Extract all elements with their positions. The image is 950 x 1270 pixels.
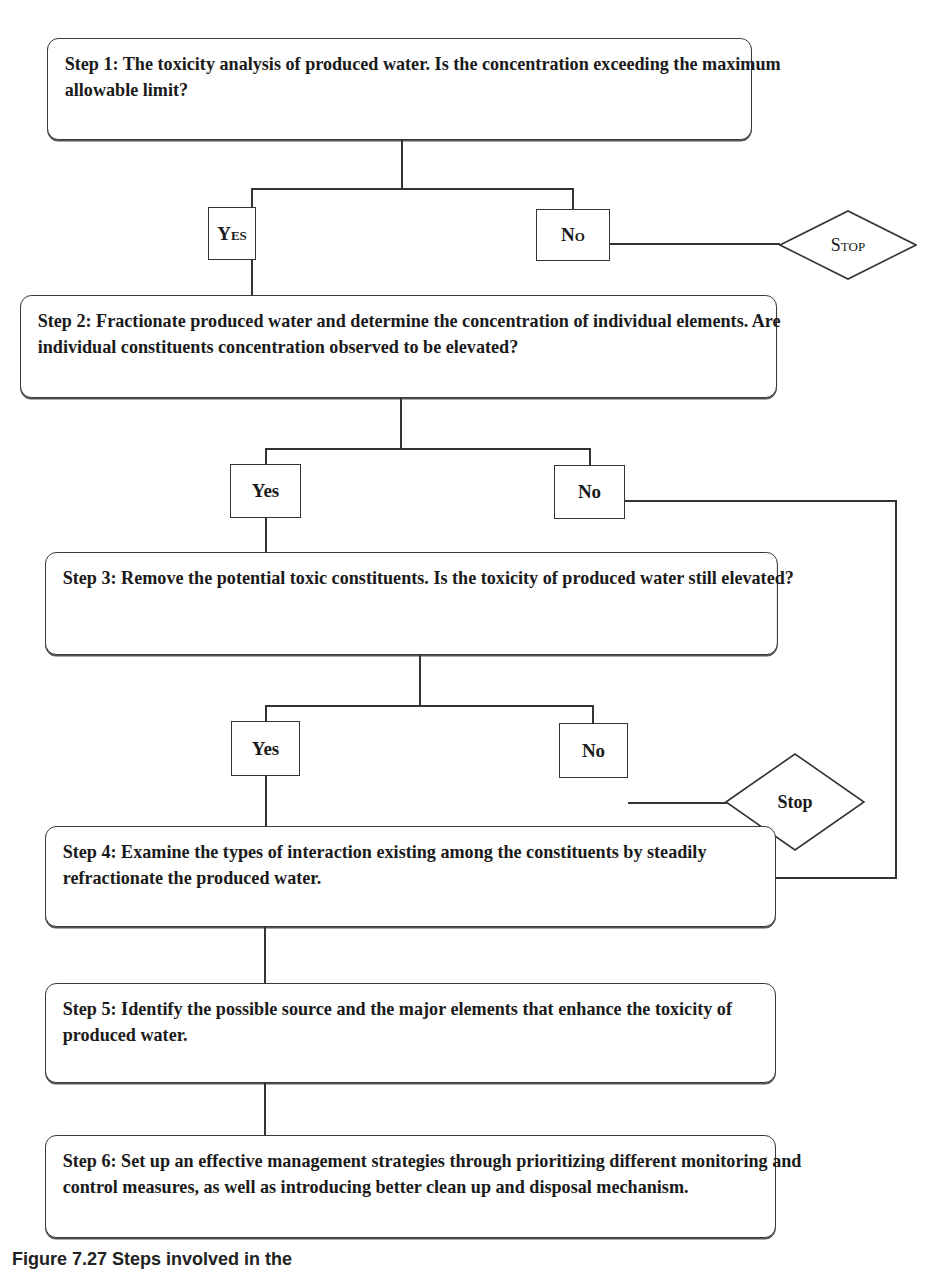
connector: [628, 802, 734, 804]
connector: [610, 243, 780, 245]
yes-label: Yes: [217, 223, 247, 245]
no-label: No: [561, 224, 585, 246]
step-5-text: Step 5: Identify the possible source and…: [63, 996, 807, 1048]
connector: [251, 260, 253, 295]
step-2-box: Step 2: Fractionate produced water and d…: [20, 295, 777, 398]
stop-diamond-1: Stop: [779, 210, 917, 280]
step-3-text: Step 3: Remove the potential toxic const…: [63, 565, 809, 591]
step-3-box: Step 3: Remove the potential toxic const…: [45, 552, 778, 655]
connector: [400, 398, 402, 448]
no-label: No: [578, 481, 601, 503]
decision-3-yes: Yes: [231, 721, 300, 776]
connector: [419, 655, 421, 705]
connector: [572, 188, 574, 210]
decision-1-no: No: [536, 209, 610, 261]
no-label: No: [582, 740, 605, 762]
step-1-box: Step 1: The toxicity analysis of produce…: [47, 38, 752, 140]
connector: [251, 188, 574, 190]
connector: [265, 518, 267, 552]
connector: [895, 500, 897, 879]
step-1-text: Step 1: The toxicity analysis of produce…: [65, 51, 781, 103]
yes-label: Yes: [252, 738, 279, 760]
step-4-box: Step 4: Examine the types of interaction…: [45, 826, 776, 927]
yes-label: Yes: [252, 480, 279, 502]
step-2-text: Step 2: Fractionate produced water and d…: [38, 308, 810, 360]
decision-2-yes: Yes: [230, 464, 301, 518]
decision-1-yes: Yes: [208, 207, 256, 260]
connector: [251, 188, 253, 208]
connector: [265, 776, 267, 826]
step-5-box: Step 5: Identify the possible source and…: [45, 983, 776, 1083]
connector: [401, 140, 403, 188]
connector: [265, 448, 267, 465]
connector: [592, 705, 594, 724]
connector: [625, 500, 897, 502]
step-6-box: Step 6: Set up an effective management s…: [45, 1135, 776, 1238]
connector: [589, 448, 591, 466]
step-6-text: Step 6: Set up an effective management s…: [63, 1148, 807, 1200]
connector: [265, 705, 594, 707]
decision-3-no: No: [559, 723, 628, 778]
connector: [265, 705, 267, 722]
connector: [265, 448, 591, 450]
connector: [264, 1083, 266, 1135]
decision-2-no: No: [554, 465, 625, 519]
stop-label: Stop: [779, 210, 917, 280]
step-4-text: Step 4: Examine the types of interaction…: [63, 839, 807, 891]
figure-caption: Figure 7.27 Steps involved in the: [12, 1249, 292, 1270]
connector: [264, 927, 266, 983]
